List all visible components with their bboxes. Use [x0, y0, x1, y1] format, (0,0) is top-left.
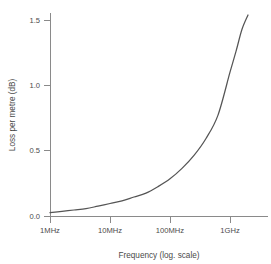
x-axis-title: Frequency (log. scale) [119, 251, 200, 260]
y-tick-label-3: 1.5 [29, 16, 40, 25]
y-tick-label-2: 1.0 [29, 81, 40, 90]
x-tick-label-1: 10MHz [98, 226, 122, 235]
x-tick-label-2: 100MHz [156, 226, 184, 235]
loss-curve [50, 15, 248, 213]
chart-figure: 1.5 1.0 0.5 0.0 1MHz 10MHz 100MHz 1GHz F… [0, 0, 271, 264]
x-tick-label-0: 1MHz [40, 226, 60, 235]
line-chart: 1.5 1.0 0.5 0.0 1MHz 10MHz 100MHz 1GHz F… [0, 0, 271, 264]
x-tick-label-3: 1GHz [220, 226, 240, 235]
y-axis-title: Loss per metre (dB) [8, 79, 17, 152]
y-tick-label-0: 0.0 [29, 212, 40, 221]
y-tick-label-1: 0.5 [29, 146, 40, 155]
